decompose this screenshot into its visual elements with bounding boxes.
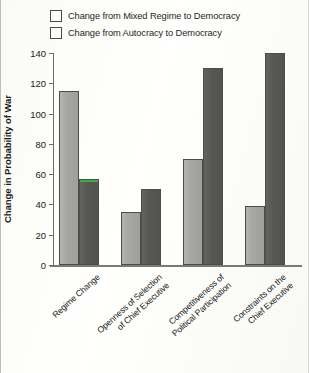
- legend-label-mixed-regime: Change from Mixed Regime to Democracy: [68, 11, 240, 21]
- y-axis-line: [53, 53, 54, 265]
- x-axis-label: Regime Change: [50, 272, 102, 320]
- bar: [121, 212, 141, 265]
- chart-figure: Change from Mixed Regime to Democracy Ch…: [0, 0, 309, 373]
- bar: [79, 179, 99, 265]
- y-tick-label: 100: [30, 108, 46, 119]
- y-tick-label: 120: [30, 78, 46, 89]
- y-tick-label: 80: [35, 138, 46, 149]
- bar-group: [59, 53, 99, 265]
- y-tick-mark: [49, 235, 54, 236]
- bar: [141, 189, 161, 265]
- y-tick-mark: [49, 174, 54, 175]
- bar: [203, 68, 223, 265]
- y-tick-mark: [49, 53, 54, 54]
- x-axis-label: Competitiveness ofPolitical Participatio…: [163, 272, 233, 338]
- y-axis-title: Change in Probability of War: [2, 95, 13, 223]
- y-tick-label: 0: [41, 260, 46, 271]
- bar-group: [245, 53, 285, 265]
- bar-group: [121, 53, 161, 265]
- y-tick-mark: [49, 144, 54, 145]
- plot-area: Change in Probability of War 02040608010…: [53, 53, 298, 265]
- bar: [59, 91, 79, 265]
- y-tick-mark: [49, 114, 54, 115]
- highlight-line: [80, 180, 98, 183]
- x-axis-line: [50, 265, 302, 267]
- bar: [265, 53, 285, 265]
- bar: [245, 206, 265, 265]
- x-axis-label: Openness of Selectionof Chief Executive: [95, 272, 171, 343]
- legend-swatch-autocracy: [50, 27, 62, 39]
- y-tick-label: 140: [30, 48, 46, 59]
- x-axis-label: Constraints on theChief Executive: [231, 272, 295, 332]
- y-tick-mark: [49, 265, 54, 266]
- bar: [183, 159, 203, 265]
- y-tick-mark: [49, 204, 54, 205]
- legend-item-autocracy: Change from Autocracy to Democracy: [50, 26, 240, 40]
- y-tick-label: 40: [35, 199, 46, 210]
- bar-group: [183, 53, 223, 265]
- y-tick-label: 20: [35, 229, 46, 240]
- chart-legend: Change from Mixed Regime to Democracy Ch…: [50, 9, 240, 43]
- y-tick-mark: [49, 83, 54, 84]
- legend-label-autocracy: Change from Autocracy to Democracy: [68, 28, 222, 38]
- legend-item-mixed-regime: Change from Mixed Regime to Democracy: [50, 9, 240, 23]
- y-tick-label: 60: [35, 169, 46, 180]
- legend-swatch-mixed-regime: [50, 10, 62, 22]
